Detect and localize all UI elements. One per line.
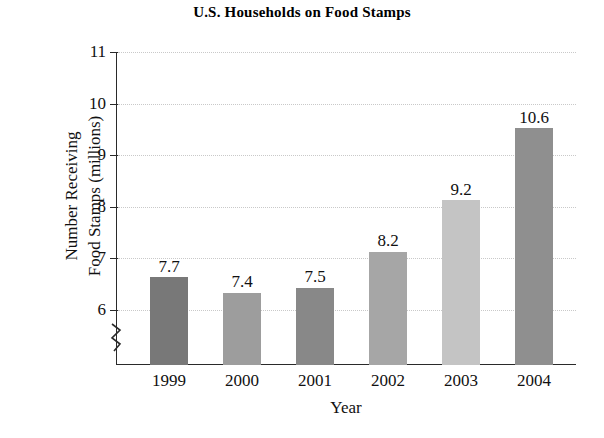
bar-2004[interactable] bbox=[515, 128, 553, 365]
x-axis-label-2001: 2001 bbox=[280, 371, 350, 390]
bar-value-2003: 9.2 bbox=[431, 181, 491, 198]
x-axis-label-2002: 2002 bbox=[353, 371, 423, 390]
bar-1999[interactable] bbox=[150, 277, 188, 365]
axis-break-icon bbox=[108, 322, 126, 352]
x-axis-title: Year bbox=[116, 398, 576, 418]
bar-2001[interactable] bbox=[296, 288, 334, 365]
x-axis-label-1999: 1999 bbox=[134, 371, 204, 390]
bar-value-2002: 8.2 bbox=[358, 232, 418, 249]
bar-2002[interactable] bbox=[369, 252, 407, 365]
bar-2000[interactable] bbox=[223, 293, 261, 365]
gridline-11 bbox=[118, 52, 576, 53]
x-axis-label-2003: 2003 bbox=[426, 371, 496, 390]
y-axis-title-line-2: Food Stamps (millions) bbox=[83, 46, 106, 346]
y-axis-title: Number Receiving Food Stamps (millions) bbox=[60, 46, 106, 346]
bar-value-2004: 10.6 bbox=[504, 109, 564, 126]
bar-value-1999: 7.7 bbox=[139, 258, 199, 275]
gridline-10 bbox=[118, 104, 576, 105]
bar-value-2001: 7.5 bbox=[285, 268, 345, 285]
bar-2003[interactable] bbox=[442, 200, 480, 365]
gridline-9 bbox=[118, 155, 576, 156]
x-axis-label-2000: 2000 bbox=[207, 371, 277, 390]
x-axis-label-2004: 2004 bbox=[499, 371, 569, 390]
y-axis-line bbox=[116, 52, 117, 365]
y-axis-title-line-1: Number Receiving bbox=[60, 46, 83, 346]
bar-value-2000: 7.4 bbox=[212, 273, 272, 290]
gridline-8 bbox=[118, 207, 576, 208]
